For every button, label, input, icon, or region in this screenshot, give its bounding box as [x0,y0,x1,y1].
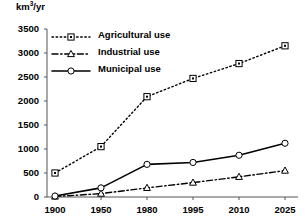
legend-key-swatch [50,63,92,75]
y-axis-tick-label: 3500 [5,24,39,34]
x-axis-tick-label: 2010 [216,205,262,215]
triangle-marker-icon [50,48,92,60]
data-point [190,159,196,165]
legend-label: Municipal use [98,64,161,74]
y-axis-tick-label: 1500 [5,120,39,130]
legend-item[interactable]: Agricultural use [50,26,170,43]
data-point [282,167,289,173]
legend-label: Industrial use [98,47,160,57]
data-point-center [54,172,56,174]
data-point [52,193,58,199]
chart-legend: Agricultural useIndustrial useMunicipal … [50,26,170,77]
legend-key-swatch [50,29,92,41]
data-point-center [238,63,240,65]
data-point-center [192,77,194,79]
water-use-line-chart: km3/yr 0500100015002000250030003500 1900… [0,0,305,224]
data-point-center [146,96,148,98]
data-point [282,140,288,146]
x-axis-tick-label: 2025 [262,205,305,215]
legend-marker-center [70,36,72,38]
y-axis-tick-label: 3000 [5,48,39,58]
x-axis-tick-label: 1980 [124,205,170,215]
legend-label: Agricultural use [98,30,170,40]
legend-key-swatch [50,46,92,58]
y-axis-tick-label: 1000 [5,144,39,154]
y-axis-tick-label: 2500 [5,72,39,82]
y-axis-tick-label: 0 [5,192,39,202]
legend-marker [68,67,74,73]
y-axis-tick-label: 2000 [5,96,39,106]
x-axis-tick-label: 1995 [170,205,216,215]
data-point [98,185,104,191]
legend-item[interactable]: Municipal use [50,60,170,77]
circle-marker-icon [50,65,92,77]
y-axis-tick-label: 500 [5,168,39,178]
data-point-center [284,45,286,47]
series-industrial-use [52,167,289,199]
series-line [55,171,285,197]
square-marker-icon [50,31,92,43]
series-municipal-use [52,140,288,199]
legend-item[interactable]: Industrial use [50,43,170,60]
data-point [236,152,242,158]
series-line [55,143,285,196]
x-axis-tick-label: 1900 [32,205,78,215]
data-point-center [100,146,102,148]
data-point [144,161,150,167]
x-axis-tick-label: 1950 [78,205,124,215]
